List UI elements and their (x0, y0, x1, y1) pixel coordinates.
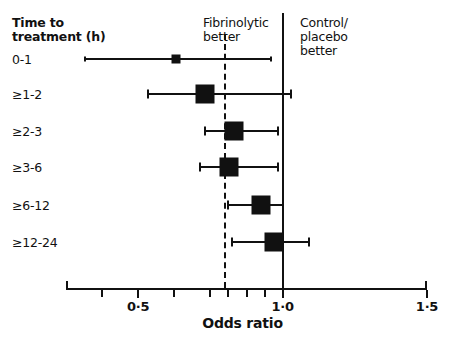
x-axis-minor-tick-6 (264, 290, 266, 297)
x-axis-right-end-tick (425, 281, 427, 290)
point-estimate-6 (264, 233, 283, 252)
point-estimate-3 (224, 122, 243, 141)
right-side-annotation: Control/ placebo better (300, 16, 348, 58)
ci-cap-5-high (282, 201, 284, 210)
ci-cap-6-low (231, 238, 233, 247)
left-side-annotation: Fibrinolytic better (203, 16, 269, 44)
confidence-interval-2 (148, 93, 291, 95)
ci-cap-6-high (308, 238, 310, 247)
ci-cap-3-high (277, 127, 279, 136)
x-axis-minor-tick-1 (101, 290, 103, 297)
forest-plot-figure: Time to treatment (h) Fibrinolytic bette… (0, 0, 449, 338)
x-axis-tick-label-3: 1·5 (416, 299, 438, 314)
point-estimate-1 (171, 55, 180, 64)
row-label-3: ≥2-3 (12, 125, 42, 138)
x-axis-tick-label-1: 0·5 (127, 299, 149, 314)
ci-cap-2-low (147, 90, 149, 99)
point-estimate-2 (195, 85, 214, 104)
x-axis-tick-label-2: 1·0 (271, 299, 293, 314)
figure-caption (18, 330, 418, 336)
ci-cap-1-low (84, 57, 86, 62)
row-label-4: ≥3-6 (12, 161, 42, 174)
point-estimate-5 (251, 196, 270, 215)
ci-cap-2-high (290, 90, 292, 99)
row-label-5: ≥6-12 (12, 199, 50, 212)
x-axis-major-tick-2 (282, 290, 284, 298)
x-axis-minor-tick-4 (227, 290, 229, 297)
x-axis-minor-tick-2 (173, 290, 175, 297)
row-header-label: Time to treatment (h) (12, 16, 105, 44)
ci-cap-3-low (204, 127, 206, 136)
point-estimate-4 (220, 158, 239, 177)
x-axis-major-tick-3 (426, 290, 428, 298)
row-label-6: ≥12-24 (12, 236, 58, 249)
x-axis-major-tick-1 (137, 290, 139, 298)
confidence-interval-4 (200, 166, 278, 168)
x-axis-left-end-tick (66, 281, 68, 290)
x-axis-title: Odds ratio (202, 315, 283, 331)
ci-cap-4-high (277, 163, 279, 172)
ci-cap-1-high (270, 57, 272, 62)
row-label-2: ≥1-2 (12, 88, 42, 101)
ci-cap-5-low (227, 201, 229, 210)
x-axis-minor-tick-5 (246, 290, 248, 297)
x-axis-minor-tick-3 (209, 290, 211, 297)
ci-cap-4-low (199, 163, 201, 172)
row-label-1: 0-1 (12, 53, 32, 66)
